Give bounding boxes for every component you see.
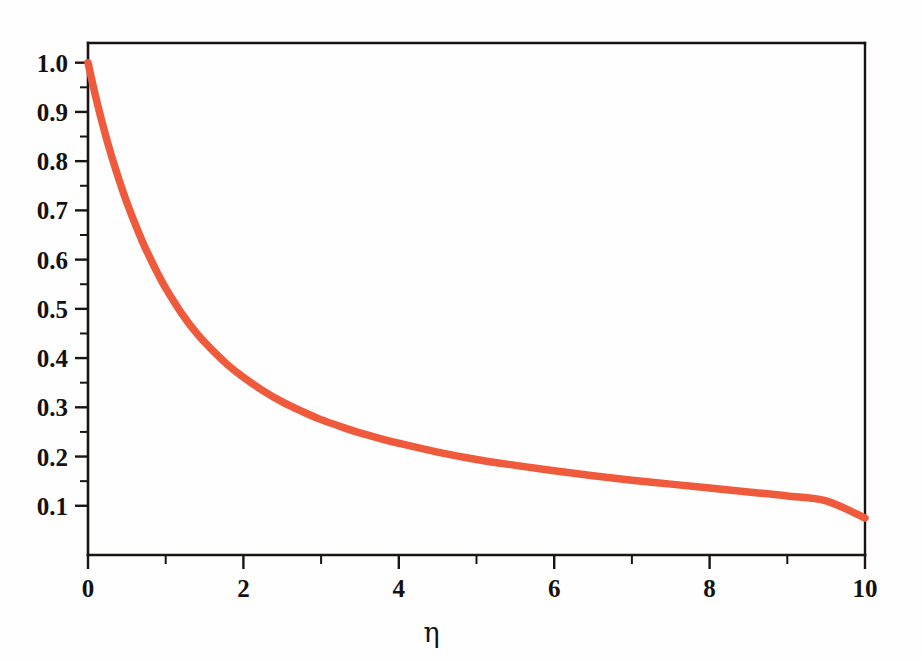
x-axis-tick-label: 6 [548, 575, 561, 602]
y-axis-tick-label: 0.4 [37, 345, 69, 372]
x-axis-tick-labels: 0246810 [82, 575, 878, 602]
y-axis-tick-label: 0.3 [37, 394, 68, 421]
figure-canvas: 0.10.20.30.40.50.60.70.80.91.0 0246810 η [0, 0, 921, 662]
x-axis-tick-label: 4 [393, 575, 406, 602]
y-axis-tick-label: 0.7 [37, 197, 68, 224]
y-axis-tick-labels: 0.10.20.30.40.50.60.70.80.91.0 [37, 50, 69, 520]
y-axis-tick-label: 0.2 [37, 444, 68, 471]
y-axis-tick-label: 1.0 [37, 50, 68, 77]
y-axis-tick-label: 0.5 [37, 296, 68, 323]
y-axis-tick-label: 0.6 [37, 247, 68, 274]
data-series-group [88, 63, 865, 518]
y-axis-tick-label: 0.9 [37, 99, 68, 126]
y-axis-tick-label: 0.8 [37, 148, 68, 175]
x-axis: 0246810 [82, 555, 878, 602]
decay-curve-line [88, 63, 865, 518]
x-axis-tick-label: 8 [703, 575, 716, 602]
plot-frame [88, 43, 865, 555]
x-axis-title: η [423, 617, 439, 648]
chart-plot: 0.10.20.30.40.50.60.70.80.91.0 0246810 η [0, 0, 921, 662]
y-axis: 0.10.20.30.40.50.60.70.80.91.0 [37, 43, 88, 555]
x-axis-tick-label: 2 [237, 575, 250, 602]
x-axis-minor-ticks [166, 555, 788, 564]
y-axis-tick-label: 0.1 [37, 493, 68, 520]
x-axis-tick-label: 0 [82, 575, 95, 602]
x-axis-tick-label: 10 [853, 575, 878, 602]
